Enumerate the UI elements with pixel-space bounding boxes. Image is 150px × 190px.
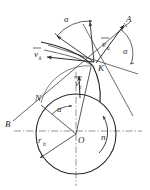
angle-arc-alpha-lower bbox=[52, 106, 72, 114]
angle-label-alpha-top: α bbox=[64, 14, 69, 24]
vector-label-v-a-sub: a bbox=[107, 45, 110, 51]
point-label-B: B bbox=[5, 119, 11, 129]
vector-component-upleft bbox=[57, 22, 94, 62]
involute-profile-curve-secondary bbox=[44, 50, 93, 66]
vector-label-v-t-sub: t bbox=[80, 84, 82, 90]
dimension-label-rb: r b bbox=[38, 135, 46, 147]
angle-arc-alpha-top bbox=[55, 21, 92, 37]
vector-v-a bbox=[96, 25, 124, 63]
rotation-label-n: n bbox=[101, 132, 106, 142]
angle-label-alpha-right: α bbox=[123, 46, 128, 56]
vector-label-v-k: v k bbox=[33, 48, 42, 61]
point-label-N: N bbox=[34, 93, 42, 103]
vector-label-v-k-base: v bbox=[34, 49, 38, 59]
angle-label-alpha-lower: α bbox=[57, 104, 62, 114]
diagram-canvas: K O N A B v a v k v t r b α α α n bbox=[0, 0, 150, 190]
dimension-label-rb-sub: b bbox=[43, 141, 46, 147]
rolling-arc-N-K bbox=[41, 66, 93, 103]
dimension-label-rb-base: r bbox=[38, 135, 42, 145]
vector-label-v-t: v t bbox=[74, 77, 82, 90]
point-label-O: O bbox=[78, 135, 85, 145]
vector-label-v-k-sub: k bbox=[39, 55, 42, 61]
vector-label-v-t-base: v bbox=[75, 78, 79, 88]
kinematic-diagram-svg: K O N A B v a v k v t r b α α α n bbox=[0, 0, 150, 190]
vector-label-v-a-base: v bbox=[102, 39, 106, 49]
point-label-A: A bbox=[125, 14, 132, 24]
point-label-K: K bbox=[97, 63, 105, 73]
